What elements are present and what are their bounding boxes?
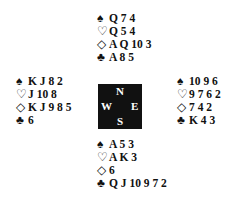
east-hand: ♠10 9 6 ♡9 7 6 2 ◇7 4 2 ♣K 4 3: [177, 75, 221, 127]
club-icon: ♣: [97, 177, 109, 190]
compass-north: N: [116, 85, 124, 97]
club-icon: ♣: [177, 114, 189, 127]
north-hand: ♠Q 7 4 ♡Q 5 4 ◇A Q 10 3 ♣A 8 5: [97, 12, 152, 64]
north-diamonds: ◇A Q 10 3: [97, 38, 152, 51]
compass-east: E: [131, 100, 138, 112]
east-clubs: ♣K 4 3: [177, 114, 221, 127]
compass-west: W: [101, 100, 112, 112]
south-diamonds: ◇6: [97, 164, 167, 177]
club-icon: ♣: [97, 51, 109, 64]
west-clubs: ♣6: [16, 114, 71, 127]
west-diamonds: ◇K J 9 8 5: [16, 101, 71, 114]
north-clubs: ♣A 8 5: [97, 51, 152, 64]
south-hearts: ♡A K 3: [97, 151, 167, 164]
south-clubs: ♣Q J 10 9 7 2: [97, 177, 167, 190]
club-icon: ♣: [16, 114, 28, 127]
west-hand: ♠K J 8 2 ♡J 10 8 ◇K J 9 8 5 ♣6: [16, 75, 71, 127]
south-hand: ♠A 5 3 ♡A K 3 ◇6 ♣Q J 10 9 7 2: [97, 138, 167, 190]
compass-box: N W E S: [98, 84, 142, 129]
compass-south: S: [117, 115, 123, 127]
